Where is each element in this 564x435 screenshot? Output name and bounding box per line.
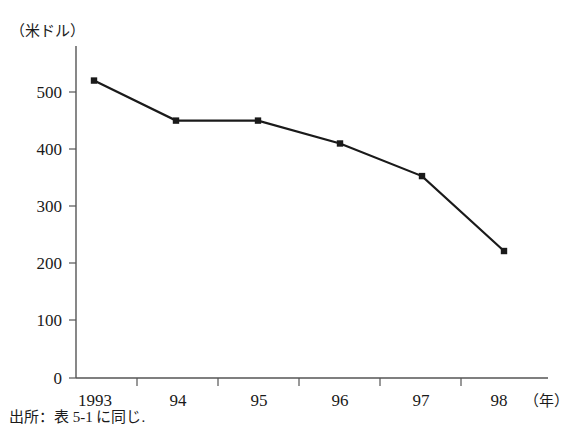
data-point-markers — [91, 77, 507, 254]
data-point-94 — [173, 117, 179, 123]
x-tick-label-1993: 1993 — [62, 392, 128, 409]
data-series-line — [94, 81, 504, 251]
x-tick-label-96: 96 — [307, 392, 373, 409]
data-point-95 — [255, 117, 261, 123]
x-tick-label-95: 95 — [226, 392, 292, 409]
x-axis-unit-label: （年） — [524, 394, 564, 409]
x-axis-ticks — [137, 378, 461, 386]
y-tick-label-500: 500 — [18, 84, 62, 101]
data-point-97 — [419, 173, 425, 179]
data-point-96 — [337, 140, 343, 146]
chart-plot-area — [0, 0, 564, 435]
x-tick-label-98: 98 — [466, 392, 532, 409]
y-tick-label-0: 0 — [18, 370, 62, 387]
x-tick-label-97: 97 — [388, 392, 454, 409]
data-point-98 — [501, 248, 507, 254]
y-tick-label-200: 200 — [18, 255, 62, 272]
x-tick-label-94: 94 — [145, 392, 211, 409]
y-tick-label-400: 400 — [18, 141, 62, 158]
data-point-1993 — [91, 77, 97, 83]
line-chart-figure: （米ドル） 0 100 200 300 400 500 — [0, 0, 564, 435]
y-axis-ticks — [69, 92, 76, 378]
y-tick-label-100: 100 — [18, 312, 62, 329]
source-note: 出所：表 5-1 に同じ. — [9, 410, 145, 425]
y-tick-label-300: 300 — [18, 198, 62, 215]
